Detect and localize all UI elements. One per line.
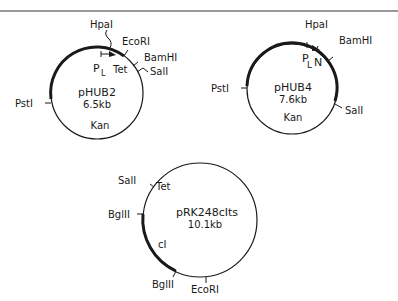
- phub2-kan-label: Kan: [91, 120, 110, 131]
- phub4-promoter-sub: L: [307, 60, 312, 70]
- phub4-name: pHUB4: [274, 81, 312, 94]
- phub2-hpai-label: HpaI: [90, 19, 113, 30]
- prk248cits-bglii-lower-label: BglII: [152, 279, 174, 290]
- prk248cits-tet-label: Tet: [155, 181, 171, 192]
- plasmid-phub2: HpaI EcoRI BamHI SalI PstI P L Tet pHUB2…: [15, 19, 177, 139]
- prk248cits-name: pRK248cIts: [176, 206, 238, 219]
- prk248cits-bglii-left-label: BglII: [108, 209, 130, 220]
- phub2-promoter-label: P: [93, 62, 100, 75]
- prk248cits-size: 10.1kb: [188, 219, 222, 230]
- prk248cits-ci-label: cI: [158, 239, 166, 250]
- phub4-hpai-label: HpaI: [305, 19, 328, 30]
- plasmid-prk248cits: SalI Tet BglII cI BglII EcoRI pRK248cIts…: [108, 163, 257, 295]
- phub4-kan-label: Kan: [284, 112, 303, 123]
- phub4-promoter-arrow-icon: [312, 45, 320, 51]
- phub4-size: 7.6kb: [279, 94, 307, 105]
- plasmid-diagram: HpaI EcoRI BamHI SalI PstI P L Tet pHUB2…: [0, 0, 398, 301]
- phub4-sali-tick: [335, 104, 342, 108]
- phub4-bamhi-label: BamHI: [339, 35, 372, 46]
- phub2-size: 6.5kb: [83, 99, 111, 110]
- phub4-n-label: N: [314, 56, 322, 69]
- prk248cits-sali-tick: [150, 184, 154, 187]
- phub2-ecori-tick: [124, 50, 128, 56]
- prk248cits-ecori-label: EcoRI: [191, 284, 219, 295]
- phub2-ecori-label: EcoRI: [122, 36, 150, 47]
- phub4-bamhi-tick: [328, 57, 333, 61]
- phub2-promoter-sub: L: [101, 69, 106, 78]
- phub4-sali-label: SalI: [345, 105, 363, 116]
- phub2-tet-label: Tet: [112, 64, 128, 75]
- phub2-bamhi-tick: [133, 62, 138, 66]
- plasmid-phub4: HpaI BamHI PstI SalI P L N pHUB4 7.6kb K…: [211, 19, 372, 134]
- phub2-name: pHUB2: [78, 86, 116, 99]
- phub2-bamhi-label: BamHI: [144, 52, 177, 63]
- prk248cits-sali-label: SalI: [118, 175, 136, 186]
- phub2-sali-label: SalI: [150, 66, 168, 77]
- phub2-sali-tick: [137, 68, 148, 72]
- phub4-psti-label: PstI: [211, 83, 229, 94]
- phub2-hpai-tick: [106, 30, 111, 48]
- phub2-psti-label: PstI: [15, 98, 33, 109]
